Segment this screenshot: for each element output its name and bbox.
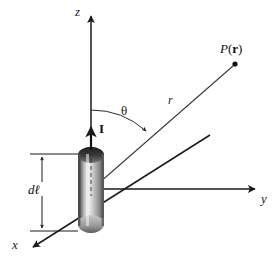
radius-vector-line (91, 66, 233, 190)
theta-label: θ (121, 104, 127, 117)
field-point-label: P(r) (220, 42, 242, 55)
current-element-figure: z y x r θ I P(r) dℓ (0, 0, 280, 264)
field-point-close-paren: ) (238, 41, 242, 56)
radius-label: r (168, 94, 173, 106)
y-axis-label: y (261, 192, 267, 205)
length-element-ell-glyph: ℓ (35, 182, 40, 197)
length-element-label: dℓ (28, 183, 40, 196)
current-label: I (99, 122, 104, 135)
figure-canvas (0, 0, 280, 264)
x-axis-label: x (12, 238, 18, 251)
field-point-dot (232, 61, 237, 66)
field-point-p-glyph: P (220, 41, 228, 56)
z-axis-label: z (75, 5, 80, 18)
x-axis-line (33, 135, 210, 247)
